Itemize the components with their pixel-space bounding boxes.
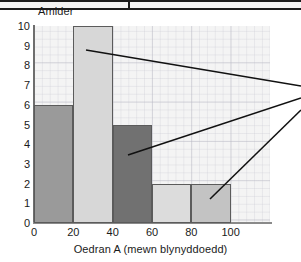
x-tick-label: 100 [211,227,251,238]
y-tick-label: 9 [6,40,30,51]
y-tick-label: 7 [6,80,30,91]
x-axis-title: Oedran A (mewn blynyddoedd) [0,243,301,255]
y-tick-label: 10 [6,21,30,32]
y-tick-label: 4 [6,139,30,150]
y-tick-label: 3 [6,158,30,169]
x-tick-label: 80 [171,227,211,238]
x-tick-label: 0 [14,227,54,238]
histogram-figure: Amlder Oedran A (mewn blynyddoedd) 01234… [0,0,301,262]
page-top-rule-tick [128,2,130,8]
histogram-bar [152,184,191,223]
x-tick-label: 40 [93,227,133,238]
y-axis-title: Amlder [38,5,73,17]
x-tick-label: 20 [53,227,93,238]
y-tick-label: 1 [6,198,30,209]
y-tick-label: 2 [6,178,30,189]
histogram-bar [191,184,230,223]
histogram-bar [113,125,152,224]
histogram-bar [73,26,112,223]
x-tick-label: 60 [132,227,172,238]
y-tick-labels: 012345678910 [0,0,30,262]
y-tick-label: 5 [6,119,30,130]
histogram-bar [34,105,73,223]
y-tick-label: 6 [6,99,30,110]
y-tick-label: 8 [6,60,30,71]
